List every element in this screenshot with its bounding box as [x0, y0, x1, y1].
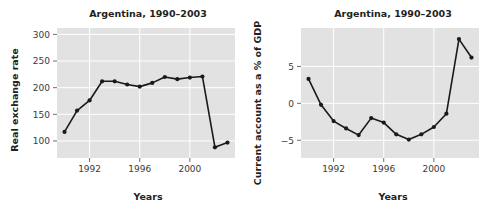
plot-area-right: −505199219962000 [281, 28, 479, 174]
y-axis-label-left: Real exchange rate [9, 48, 20, 152]
y-tick-label: 300 [33, 30, 50, 40]
x-tick-label: 1996 [128, 164, 151, 174]
data-point [331, 119, 335, 123]
data-point [444, 112, 448, 116]
chart-svg-real-exchange-rate: Argentina, 1990–2003 Real exchange rate … [0, 0, 245, 209]
chart-title-right: Argentina, 1990–2003 [334, 8, 452, 19]
data-point [225, 140, 229, 144]
data-point [457, 37, 461, 41]
chart-title-left: Argentina, 1990–2003 [89, 8, 207, 19]
data-point [344, 126, 348, 130]
data-point [369, 116, 373, 120]
data-point [357, 133, 361, 137]
data-point [394, 132, 398, 136]
plot-background [301, 28, 479, 158]
x-axis-label-left: Years [132, 191, 163, 202]
y-tick-label: 5 [288, 62, 294, 72]
plot-background [57, 28, 235, 158]
plot-area-left: 100150200250300199219962000 [33, 28, 235, 174]
data-point [419, 132, 423, 136]
data-point [62, 130, 66, 134]
figure-two-panel-line-charts: Argentina, 1990–2003 Real exchange rate … [0, 0, 490, 209]
x-axis-label-right: Years [377, 191, 408, 202]
x-tick-label: 2000 [178, 164, 201, 174]
y-tick-label: −5 [281, 136, 294, 146]
data-point [75, 108, 79, 112]
y-tick-label: 100 [33, 136, 50, 146]
data-point [113, 79, 117, 83]
y-tick-label: 150 [33, 110, 50, 120]
y-axis-label-right: Current account as a % of GDP [252, 21, 263, 185]
data-point [407, 137, 411, 141]
data-point [188, 75, 192, 79]
chart-svg-current-account: Argentina, 1990–2003 Current account as … [245, 0, 490, 209]
data-point [432, 125, 436, 129]
data-point [382, 120, 386, 124]
data-point [306, 77, 310, 81]
data-point [100, 79, 104, 83]
data-point [175, 77, 179, 81]
y-tick-label: 0 [288, 99, 294, 109]
x-tick-label: 2000 [422, 164, 445, 174]
data-point [163, 75, 167, 79]
data-point [125, 82, 129, 86]
x-tick-label: 1992 [322, 164, 345, 174]
chart-panel-current-account: Argentina, 1990–2003 Current account as … [245, 0, 490, 209]
data-point [469, 55, 473, 59]
data-point [138, 85, 142, 89]
data-point [319, 103, 323, 107]
data-point [150, 81, 154, 85]
x-tick-label: 1996 [372, 164, 395, 174]
y-tick-label: 200 [33, 83, 50, 93]
y-tick-label: 250 [33, 56, 50, 66]
data-point [213, 145, 217, 149]
data-point [87, 98, 91, 102]
x-tick-label: 1992 [78, 164, 101, 174]
chart-panel-real-exchange-rate: Argentina, 1990–2003 Real exchange rate … [0, 0, 245, 209]
data-point [200, 74, 204, 78]
